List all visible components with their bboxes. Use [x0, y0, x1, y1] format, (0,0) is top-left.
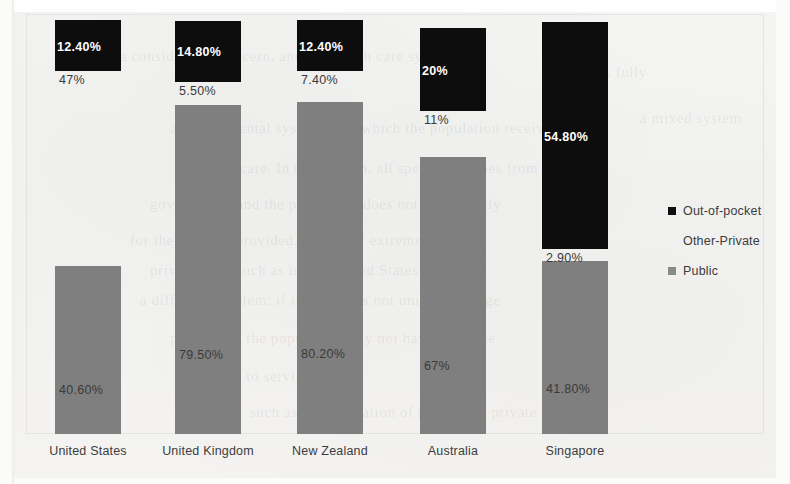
- bar-data-label: 7.40%: [301, 73, 421, 87]
- x-axis-category-label: Singapore: [509, 444, 641, 458]
- bar-data-label: 54.80%: [544, 130, 664, 144]
- plot-area: 40.60%47%12.40%79.50%5.50%14.80%80.20%7.…: [26, 20, 646, 434]
- x-axis-category-label: New Zealand: [264, 444, 396, 458]
- page-top-margin: [14, 0, 776, 12]
- chart-legend: Out-of-pocket Other-Private Public: [668, 196, 784, 286]
- bar-data-label: 12.40%: [299, 40, 419, 54]
- bar-segment-public[interactable]: [542, 261, 608, 434]
- bar-data-label: 41.80%: [546, 382, 666, 396]
- bar-segment-public[interactable]: [297, 102, 363, 434]
- legend-label: Public: [683, 264, 718, 278]
- bar-data-label: 80.20%: [301, 347, 421, 361]
- chart-container: is the a considerable concern, and the h…: [0, 0, 790, 484]
- bar-segment-public[interactable]: [420, 157, 486, 434]
- bar-column[interactable]: [542, 20, 608, 434]
- legend-item-other-private[interactable]: Other-Private: [668, 226, 784, 256]
- bar-data-label: 20%: [422, 64, 542, 78]
- x-axis-category-label: United States: [22, 444, 154, 458]
- x-axis-category-label: Australia: [387, 444, 519, 458]
- bar-data-label: 67%: [424, 359, 544, 373]
- legend-swatch-icon: [668, 267, 676, 275]
- bar-data-label: 14.80%: [177, 45, 297, 59]
- bar-segment-public[interactable]: [55, 266, 121, 434]
- bar-data-label: 5.50%: [179, 84, 299, 98]
- page-left-edge-shadow: [12, 0, 15, 484]
- bar-segment-other-private[interactable]: [55, 71, 121, 266]
- legend-swatch-icon: [668, 237, 676, 245]
- bar-data-label: 2.90%: [546, 251, 666, 265]
- legend-swatch-icon: [668, 207, 676, 215]
- bar-data-label: 12.40%: [57, 40, 177, 54]
- bar-data-label: 11%: [424, 113, 544, 127]
- x-axis-category-label: United Kingdom: [142, 444, 274, 458]
- bar-data-label: 40.60%: [59, 383, 179, 397]
- legend-item-public[interactable]: Public: [668, 256, 784, 286]
- bar-data-label: 79.50%: [179, 348, 299, 362]
- bar-column[interactable]: [175, 20, 241, 434]
- bar-segment-public[interactable]: [175, 105, 241, 434]
- bar-data-label: 47%: [59, 73, 179, 87]
- legend-label: Out-of-pocket: [683, 204, 761, 218]
- legend-label: Other-Private: [683, 234, 760, 248]
- legend-item-out-of-pocket[interactable]: Out-of-pocket: [668, 196, 784, 226]
